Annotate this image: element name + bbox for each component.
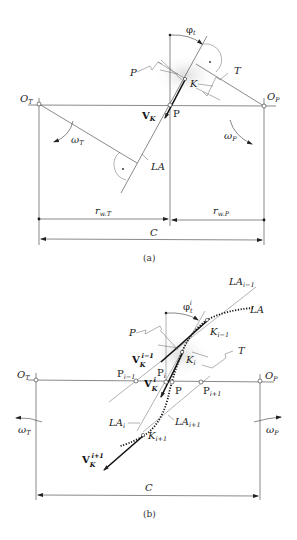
point-k-i-plus-1 — [141, 433, 144, 436]
panel-a: OT OP P K P T VK φt ωT ωP LA rw.T rw.P C… — [20, 24, 280, 263]
label-omega-t: ωT — [18, 424, 31, 437]
label-la-i-plus-1: LAi+1 — [174, 416, 201, 429]
caption-a: (a) — [143, 253, 155, 263]
label-omega-t: ωT — [71, 134, 84, 147]
point-p-i — [164, 380, 168, 384]
label-omega-p: ωP — [224, 130, 237, 143]
point-p — [168, 103, 172, 107]
la-leader — [142, 154, 148, 160]
point-p — [170, 380, 174, 384]
tool-radius-line — [39, 104, 137, 163]
label-contact-k: K — [189, 78, 198, 89]
label-angle-phi: φt — [186, 24, 196, 37]
point-o-t — [34, 378, 38, 382]
right-angle-dot — [209, 61, 211, 63]
point-o-p — [262, 104, 266, 108]
label-r-wp: rw.P — [213, 205, 230, 218]
label-p-i-plus-1: Pi+1 — [203, 385, 221, 398]
label-r-wt: rw.T — [95, 205, 112, 218]
angle-arc — [166, 313, 198, 320]
point-o-t — [37, 102, 41, 106]
label-omega-p: ωP — [266, 424, 279, 437]
label-o-t: OT — [20, 93, 33, 106]
label-pitch-point: P — [173, 108, 180, 119]
label-velocity-i: VKi — [143, 376, 158, 393]
label-velocity-i-plus-1: VKi+1 — [81, 452, 104, 469]
label-center-distance: C — [150, 227, 158, 238]
point-k-i — [180, 350, 183, 353]
label-p-i-minus-1: Pi−1 — [117, 368, 135, 381]
right-angle-arc — [114, 152, 126, 180]
label-tool-profile: T — [234, 65, 242, 76]
point-o-p — [258, 379, 262, 383]
angle-arc — [170, 35, 202, 44]
label-angle-phi: φti — [183, 299, 193, 315]
label-k-i-minus-1: Ki−1 — [209, 326, 229, 339]
point-k — [183, 77, 186, 80]
pinion-profile-leader — [136, 326, 162, 334]
label-pinion-profile: P — [128, 327, 136, 338]
omega-t-arrow — [16, 418, 42, 422]
label-velocity: VK — [141, 110, 156, 123]
label-pinion-profile: P — [129, 67, 137, 78]
label-center-distance: C — [145, 482, 153, 493]
c-dimension — [41, 239, 262, 240]
label-pitch-point: P — [175, 385, 182, 396]
caption-b: (b) — [143, 509, 156, 519]
gear-meshing-diagram: OT OP P K P T VK φt ωT ωP LA rw.T rw.P C… — [0, 0, 297, 540]
point-k-i-minus-1 — [205, 318, 208, 321]
velocity-vector-i-plus-1 — [104, 436, 143, 470]
label-o-p: OP — [267, 91, 280, 104]
point-p-i-plus-1 — [199, 380, 203, 384]
right-angle-dot — [122, 168, 124, 170]
la-i-plus-1-leader — [168, 415, 174, 420]
label-la-i: LAi — [108, 417, 125, 430]
label-o-p: OP — [265, 370, 278, 383]
label-line-of-action: LA — [150, 161, 165, 172]
label-o-t: OT — [17, 369, 30, 382]
omega-p-arrow — [254, 417, 281, 422]
c-dimension — [38, 495, 258, 496]
label-line-of-action: LA — [249, 304, 264, 315]
center-line — [28, 105, 276, 106]
label-tool-profile: T — [238, 345, 246, 356]
label-k-i-plus-1: Ki+1 — [147, 430, 167, 443]
panel-b: OT OP Pi−1 Pi P Pi+1 Ki−1 Ki Ki+1 P T φt… — [16, 276, 281, 519]
label-la-i-minus-1: LAi−1 — [228, 276, 255, 289]
contact-zone-shading — [153, 53, 217, 97]
